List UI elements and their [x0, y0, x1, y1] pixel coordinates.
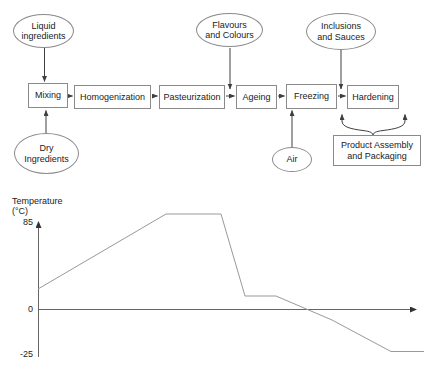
ytick-minus-25: -25: [0, 349, 33, 359]
oval-liquid-ingredients-label: Liquid ingredients: [21, 21, 65, 42]
step-box-homogenization: Homogenization: [74, 85, 151, 109]
oval-air: Air: [272, 147, 312, 172]
oval-dry-ingredients: Dry Ingredients: [14, 133, 79, 174]
ytick-0: 0: [0, 304, 33, 314]
chart-ylabel-unit: (°C): [12, 206, 28, 216]
bracket-assembly-left-arrow: [342, 115, 373, 137]
bracket-assembly-right-arrow: [373, 115, 405, 137]
oval-flavours-and-colours: Flavours and Colours: [196, 13, 263, 47]
oval-inclusions-and-sauces-label: Inclusions and Sauces: [317, 21, 365, 42]
step-label-pasteurization: Pasteurization: [163, 92, 220, 103]
step-box-mixing: Mixing: [28, 83, 68, 108]
step-label-ageing: Ageing: [242, 92, 270, 103]
oval-dry-ingredients-label: Dry Ingredients: [24, 143, 69, 164]
step-label-mixing: Mixing: [35, 90, 61, 101]
step-box-hardening: Hardening: [347, 85, 399, 109]
step-box-pasteurization: Pasteurization: [159, 85, 225, 109]
oval-inclusions-and-sauces: Inclusions and Sauces: [306, 13, 376, 50]
output-box-label: Product Assembly and Packaging: [341, 140, 413, 161]
step-label-hardening: Hardening: [352, 92, 394, 103]
ice-cream-process-diagram: Liquid ingredients Flavours and Colours …: [0, 0, 433, 370]
oval-flavours-and-colours-label: Flavours and Colours: [205, 20, 254, 41]
step-label-freezing: Freezing: [294, 91, 329, 102]
oval-air-label: Air: [287, 154, 298, 165]
ytick-85: 85: [0, 217, 33, 227]
diagram-lines-layer: [0, 0, 433, 370]
temperature-curve: [38, 214, 424, 352]
step-label-homogenization: Homogenization: [80, 92, 145, 103]
step-box-freezing: Freezing: [286, 84, 337, 109]
step-box-ageing: Ageing: [236, 85, 277, 109]
chart-ylabel-title: Temperature: [12, 196, 63, 206]
output-box-product-assembly: Product Assembly and Packaging: [333, 135, 421, 166]
oval-liquid-ingredients: Liquid ingredients: [13, 14, 74, 48]
